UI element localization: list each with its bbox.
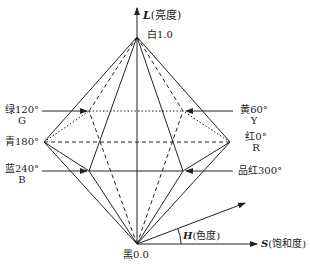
h-arc bbox=[178, 229, 181, 244]
l-axis-label: L(亮度) bbox=[143, 10, 181, 21]
yellow-label: 黄60°Y bbox=[236, 104, 272, 126]
magenta-label: 品红300° bbox=[238, 165, 282, 176]
green-label: 绿120°G bbox=[4, 104, 40, 126]
white-label: 白1.0 bbox=[147, 29, 173, 40]
black-label: 黑0.0 bbox=[123, 249, 149, 260]
red-label: 红0°R bbox=[240, 131, 272, 153]
h-axis-label: H(色度) bbox=[183, 230, 220, 241]
s-axis-label: S(饱和度) bbox=[261, 238, 306, 249]
cyan-label: 青180° bbox=[5, 136, 39, 147]
blue-label: 蓝240°B bbox=[4, 163, 40, 185]
